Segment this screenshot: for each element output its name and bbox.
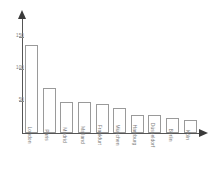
x-axis-label-münchen: München (115, 125, 120, 146)
x-axis-arrow-icon (199, 129, 208, 137)
bar-slot (58, 18, 76, 133)
x-axis-label-london: London (27, 127, 32, 144)
x-label-slot: Hamburg (129, 135, 147, 173)
bar-slot (146, 18, 164, 133)
x-label-slot: Berlin (164, 135, 182, 173)
bar-slot (76, 18, 94, 133)
y-tick-50: 50 (0, 101, 24, 102)
x-axis-label-madrid: Madrid (62, 127, 67, 143)
x-label-slot: Köln (181, 135, 199, 173)
x-axis-label-frankfurt: Frankfurt (97, 125, 102, 145)
x-axis-label-mailand: Mailand (80, 126, 85, 144)
x-axis-label-hamburg: Hamburg (132, 125, 137, 146)
bar-slot (41, 18, 59, 133)
x-label-slot: Frankfurt (93, 135, 111, 173)
bar-slot (93, 18, 111, 133)
bar-paris (43, 88, 56, 133)
bar-slot (181, 18, 199, 133)
x-label-slot: Düsseldorf (146, 135, 164, 173)
x-label-slot: Paris (41, 135, 59, 173)
x-label-slot: London (23, 135, 41, 173)
bar-chart: 50100150 LondonParisMadridMailandFrankfu… (0, 0, 218, 173)
x-label-slot: Madrid (58, 135, 76, 173)
x-label-slot: Mailand (76, 135, 94, 173)
y-tick-150: 150 (0, 37, 24, 38)
x-axis-label-berlin: Berlin (168, 128, 173, 141)
x-axis-label-köln: Köln (185, 130, 190, 140)
bar-slot (129, 18, 147, 133)
x-axis-label-düsseldorf: Düsseldorf (150, 123, 155, 147)
bar-series (23, 18, 199, 133)
x-axis-category-labels: LondonParisMadridMailandFrankfurtMünchen… (23, 135, 199, 173)
bar-london (25, 45, 38, 133)
plot-area (23, 18, 199, 133)
x-axis-label-paris: Paris (44, 129, 49, 141)
bar-slot (164, 18, 182, 133)
x-label-slot: München (111, 135, 129, 173)
bar-slot (23, 18, 41, 133)
y-tick-100: 100 (0, 69, 24, 70)
bar-slot (111, 18, 129, 133)
